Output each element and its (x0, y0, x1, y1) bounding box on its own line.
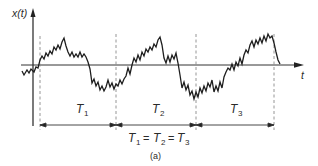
y-axis (31, 8, 36, 126)
svg-text:3: 3 (185, 138, 190, 147)
period-equality-equation: T 1 = T 2 = T 3 (128, 131, 190, 147)
signal-waveform (22, 34, 280, 99)
svg-text:3: 3 (238, 109, 243, 118)
period-label-3: T 3 (230, 102, 243, 118)
periodic-signal-diagram: x(t) t T 1 T 2 T 3 T 1 = T 2 = T 3 (a) (0, 0, 318, 166)
period-label-2: T 2 (152, 102, 165, 118)
figure-caption: (a) (150, 151, 161, 161)
period-label-1: T 1 (76, 102, 89, 118)
period-dimension-arrows (40, 123, 274, 127)
x-axis (21, 62, 304, 67)
svg-text:=: = (143, 132, 149, 144)
svg-text:2: 2 (161, 138, 166, 147)
svg-text:2: 2 (160, 109, 165, 118)
svg-text:1: 1 (84, 109, 89, 118)
svg-text:1: 1 (136, 138, 141, 147)
svg-text:=: = (168, 132, 174, 144)
y-axis-label: x(t) (11, 7, 27, 19)
x-axis-label: t (301, 69, 305, 81)
